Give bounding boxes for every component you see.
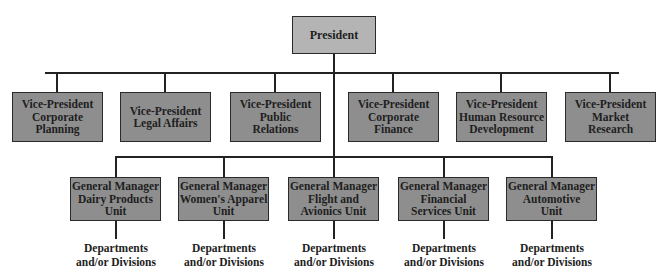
connector-gm-drop — [115, 156, 117, 177]
vp-box-market-research: Vice-President Market Research — [565, 92, 656, 142]
vp-label: Vice-President Legal Affairs — [130, 105, 202, 130]
vp-box-corporate-planning: Vice-President Corporate Planning — [12, 92, 103, 142]
connector-president-down — [333, 54, 335, 73]
connector-dept-drop — [551, 221, 553, 239]
connector-gm-drop — [223, 156, 225, 177]
gm-box-womens-apparel: General Manager Women's Apparel Unit — [178, 177, 269, 221]
vp-box-public-relations: Vice-President Public Relations — [230, 92, 321, 142]
connector-gm-drop — [551, 156, 553, 177]
connector-dept-drop — [333, 221, 335, 239]
president-label: President — [310, 29, 358, 42]
vp-label: Vice-President Corporate Planning — [22, 98, 94, 136]
gm-label: General Manager Dairy Products Unit — [72, 180, 159, 218]
gm-label: General Manager Flight and Avionics Unit — [290, 180, 377, 218]
vp-box-corporate-finance: Vice-President Corporate Finance — [348, 92, 439, 142]
president-box: President — [292, 16, 376, 54]
connector-vp-drop — [500, 72, 502, 92]
vp-label: Vice-President Market Research — [575, 98, 647, 136]
vp-label: Vice-President Public Relations — [240, 98, 312, 136]
gm-label: General Manager Financial Services Unit — [400, 180, 487, 218]
departments-label: Departments and/or Divisions — [274, 241, 394, 269]
vp-box-human-resource-development: Vice-President Human Resource Developmen… — [456, 92, 547, 142]
departments-label: Departments and/or Divisions — [164, 241, 284, 269]
gm-box-financial-services: General Manager Financial Services Unit — [398, 177, 489, 221]
connector-trunk — [333, 72, 335, 157]
gm-box-flight-avionics: General Manager Flight and Avionics Unit — [288, 177, 379, 221]
vp-label: Vice-President Corporate Finance — [358, 98, 430, 136]
departments-label: Departments and/or Divisions — [56, 241, 176, 269]
connector-vp-drop — [164, 72, 166, 92]
connector-dept-drop — [115, 221, 117, 239]
connector-vp-drop — [56, 72, 58, 92]
connector-vp-drop — [274, 72, 276, 92]
vp-box-legal-affairs: Vice-President Legal Affairs — [120, 92, 211, 142]
connector-vp-bus — [45, 72, 619, 74]
connector-dept-drop — [223, 221, 225, 239]
departments-label: Departments and/or Divisions — [492, 241, 612, 269]
connector-vp-drop — [392, 72, 394, 92]
connector-vp-drop — [609, 72, 611, 92]
departments-label: Departments and/or Divisions — [384, 241, 504, 269]
vp-label: Vice-President Human Resource Developmen… — [459, 98, 544, 136]
gm-box-dairy-products: General Manager Dairy Products Unit — [70, 177, 161, 221]
connector-gm-drop — [333, 156, 335, 177]
gm-label: General Manager Women's Apparel Unit — [180, 180, 268, 218]
connector-gm-drop — [443, 156, 445, 177]
connector-dept-drop — [443, 221, 445, 239]
gm-box-automotive: General Manager Automotive Unit — [506, 177, 597, 221]
gm-label: General Manager Automotive Unit — [508, 180, 595, 218]
